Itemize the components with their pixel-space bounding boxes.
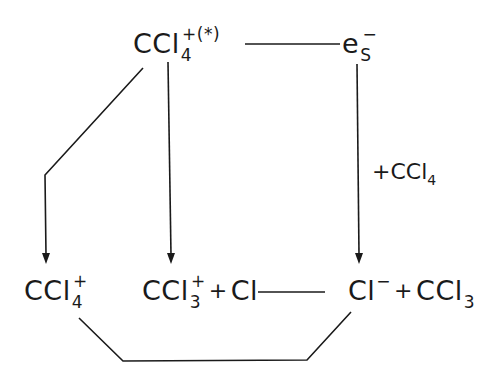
species-partner-base: CCl bbox=[416, 275, 463, 306]
species-base: CCl bbox=[142, 275, 189, 306]
arrow-right-vertical bbox=[357, 64, 359, 255]
label-subscript: 4 bbox=[427, 172, 436, 188]
arrowhead-middle-icon bbox=[167, 253, 175, 264]
species-subscript: 4 bbox=[72, 292, 83, 312]
species-superscript: − bbox=[362, 24, 377, 44]
species-ccl3-cation-plus-cl: CCl3++Cl bbox=[142, 277, 258, 304]
species-superscript: + bbox=[73, 271, 88, 291]
species-ccl4-cation: CCl4+ bbox=[24, 277, 88, 304]
reaction-diagram-lines bbox=[0, 0, 488, 377]
species-partner: Cl bbox=[231, 275, 258, 306]
species-base: Cl bbox=[348, 275, 375, 306]
plus-operator: + bbox=[209, 278, 228, 303]
connector-bottom-loop bbox=[79, 312, 351, 361]
species-base: CCl bbox=[24, 275, 71, 306]
arrowhead-right-icon bbox=[355, 253, 363, 264]
species-superscript: − bbox=[376, 271, 391, 291]
species-subscript: 3 bbox=[190, 292, 201, 312]
arrow-top-to-bottom-left bbox=[45, 68, 143, 255]
label-prefix: +CCl bbox=[372, 159, 427, 184]
species-base: e bbox=[342, 28, 359, 59]
arrow-top-to-bottom-middle bbox=[168, 62, 171, 255]
species-chloride-plus-ccl3: Cl−+CCl3 bbox=[348, 277, 475, 304]
species-partner-subscript: 3 bbox=[464, 292, 475, 312]
arrowhead-left-icon bbox=[42, 253, 50, 264]
species-superscript: + bbox=[191, 271, 206, 291]
species-subscript: S bbox=[360, 45, 371, 65]
edge-label-add-ccl4: +CCl4 bbox=[372, 159, 436, 184]
species-subscript: 4 bbox=[181, 45, 192, 65]
species-solvated-electron: eS− bbox=[342, 30, 377, 57]
species-excited-ccl4-cation: CCl4+(*) bbox=[133, 30, 220, 57]
species-superscript: +(*) bbox=[182, 24, 220, 44]
plus-operator: + bbox=[394, 278, 413, 303]
species-base: CCl bbox=[133, 28, 180, 59]
